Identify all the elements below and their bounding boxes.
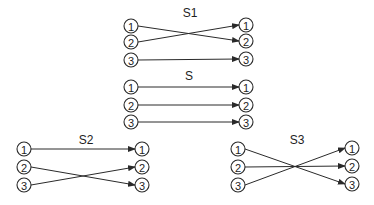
left-node-3: 3: [231, 178, 245, 192]
right-node-1: 1: [135, 142, 149, 156]
right-node-3: 3: [345, 177, 359, 191]
node-label: 2: [235, 162, 241, 174]
right-node-3: 3: [239, 52, 253, 66]
node-label: 1: [243, 82, 249, 94]
right-node-2: 2: [239, 34, 253, 48]
left-node-2: 2: [124, 35, 138, 49]
node-label: 2: [128, 37, 134, 49]
left-node-1: 1: [124, 19, 138, 33]
permutation-s3: S3123123: [231, 133, 359, 192]
permutation-label: S3: [290, 133, 305, 147]
node-label: 3: [139, 180, 145, 192]
node-label: 3: [21, 180, 27, 192]
permutation-diagram: S1123123S123123S2123123S3123123: [0, 0, 374, 205]
right-node-2: 2: [135, 160, 149, 174]
node-label: 1: [139, 144, 145, 156]
left-node-1: 1: [124, 80, 138, 94]
left-node-3: 3: [124, 115, 138, 129]
node-label: 2: [21, 162, 27, 174]
node-label: 2: [128, 100, 134, 112]
mapping-arrow: [138, 25, 239, 42]
node-label: 3: [128, 117, 134, 129]
permutation-s2: S2123123: [17, 133, 149, 192]
left-node-3: 3: [17, 178, 31, 192]
node-label: 3: [243, 117, 249, 129]
node-label: 1: [128, 82, 134, 94]
right-node-2: 2: [345, 159, 359, 173]
node-label: 1: [128, 21, 134, 33]
node-label: 2: [139, 162, 145, 174]
node-label: 3: [243, 54, 249, 66]
node-label: 2: [243, 36, 249, 48]
node-label: 1: [349, 143, 355, 155]
right-node-1: 1: [239, 80, 253, 94]
permutation-label: S: [185, 69, 193, 83]
mapping-arrow: [138, 59, 239, 60]
right-node-1: 1: [345, 141, 359, 155]
left-node-3: 3: [124, 53, 138, 67]
left-node-2: 2: [17, 160, 31, 174]
node-label: 2: [349, 161, 355, 173]
node-label: 3: [128, 55, 134, 67]
left-node-1: 1: [17, 142, 31, 156]
permutation-label: S2: [79, 133, 94, 147]
right-node-1: 1: [239, 18, 253, 32]
right-node-2: 2: [239, 98, 253, 112]
node-label: 1: [235, 144, 241, 156]
left-node-2: 2: [231, 160, 245, 174]
node-label: 2: [243, 100, 249, 112]
permutation-s1: S1123123: [124, 6, 253, 67]
right-node-3: 3: [239, 115, 253, 129]
left-node-2: 2: [124, 98, 138, 112]
node-label: 1: [243, 20, 249, 32]
permutation-s: S123123: [124, 69, 253, 129]
right-node-3: 3: [135, 178, 149, 192]
permutation-label: S1: [183, 6, 198, 20]
node-label: 3: [235, 180, 241, 192]
node-label: 1: [21, 144, 27, 156]
node-label: 3: [349, 179, 355, 191]
left-node-1: 1: [231, 142, 245, 156]
